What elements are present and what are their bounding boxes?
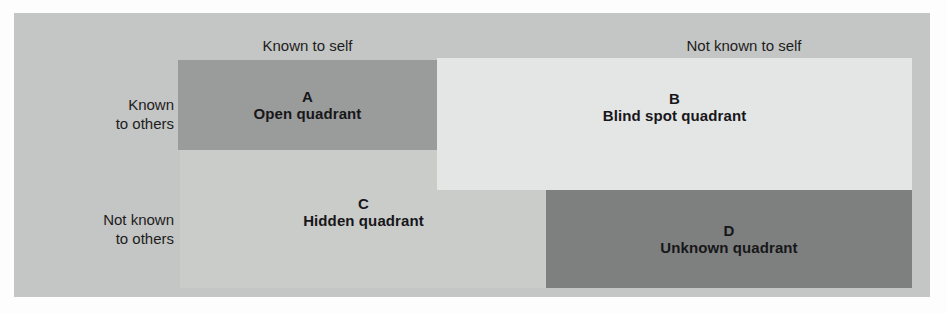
quadrant-b-blind-spot: B Blind spot quadrant xyxy=(437,58,912,190)
row-label-known-to-others-line1: Known xyxy=(40,95,174,114)
row-label-not-known-to-others: Not known to others xyxy=(30,210,174,248)
diagram-panel: Known to self Not known to self Known to… xyxy=(14,13,930,297)
quadrant-d-letter: D xyxy=(723,222,734,239)
quadrant-a-letter: A xyxy=(302,88,313,105)
row-label-known-to-others-line2: to others xyxy=(40,114,174,133)
quadrant-d-unknown: D Unknown quadrant xyxy=(546,190,912,288)
quadrant-d-title: Unknown quadrant xyxy=(660,239,797,257)
johari-window-figure: Known to self Not known to self Known to… xyxy=(0,0,947,313)
quadrant-b-labels: B Blind spot quadrant xyxy=(603,90,747,125)
quadrant-b-title: Blind spot quadrant xyxy=(603,107,747,125)
quadrant-b-letter: B xyxy=(669,90,680,107)
row-label-not-known-to-others-line1: Not known xyxy=(30,210,174,229)
row-label-known-to-others: Known to others xyxy=(40,95,174,133)
quadrant-c-title: Hidden quadrant xyxy=(303,212,424,230)
quadrant-a-open: A Open quadrant xyxy=(178,60,437,150)
quadrant-a-labels: A Open quadrant xyxy=(254,88,362,123)
column-header-known-to-self: Known to self xyxy=(178,37,437,55)
column-header-not-known-to-self: Not known to self xyxy=(624,37,864,55)
row-label-not-known-to-others-line2: to others xyxy=(30,229,174,248)
quadrant-c-letter: C xyxy=(358,195,369,212)
quadrant-a-title: Open quadrant xyxy=(254,105,362,123)
quadrant-d-labels: D Unknown quadrant xyxy=(660,222,797,257)
quadrant-c-labels: C Hidden quadrant xyxy=(303,195,424,230)
